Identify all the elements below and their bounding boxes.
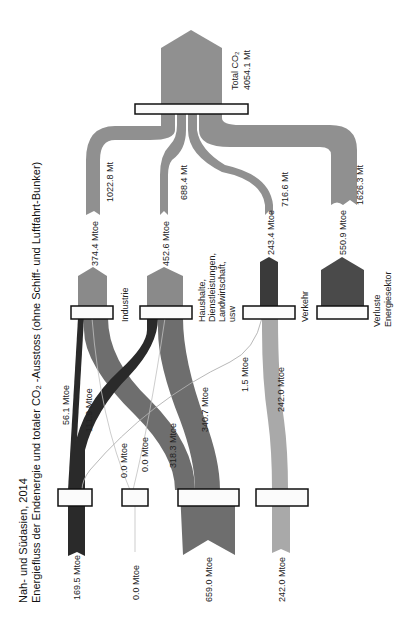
haushalte-energy-arrow bbox=[147, 267, 183, 306]
industrie-energy-arrow bbox=[78, 267, 107, 306]
co2-industrie-value: 1022.8 Mt bbox=[105, 161, 115, 202]
haushalte-label-3: Landwirtschaft, bbox=[217, 261, 227, 322]
flow-0-0-a-value: 0.0 Mtoe bbox=[119, 443, 129, 478]
flow-318-3-value: 318.3 Mtoe bbox=[168, 423, 178, 468]
co2-haushalte-value: 688.4 Mt bbox=[179, 164, 189, 200]
flow-56-1-value: 56.1 Mtoe bbox=[61, 385, 71, 425]
source3-value: 659.0 Mtoe bbox=[204, 557, 214, 602]
verkehr-label: Verkehr bbox=[300, 291, 310, 322]
total-co2-arrow bbox=[161, 30, 222, 105]
flow-1-5-value: 1.5 Mtoe bbox=[240, 357, 250, 392]
verluste-energy-arrow bbox=[321, 257, 364, 306]
total-co2-value: 4054.1 Mt bbox=[242, 49, 252, 90]
industrie-energy-value: 374.4 Mtoe bbox=[90, 221, 100, 266]
source3-node bbox=[178, 489, 239, 506]
industrie-node bbox=[71, 306, 113, 319]
verluste-node bbox=[317, 306, 368, 319]
industrie-label: Industrie bbox=[120, 287, 130, 322]
co2-flow-verluste bbox=[199, 110, 357, 205]
verkehr-energy-arrow bbox=[260, 257, 278, 306]
haushalte-label-2: Dienstleistungen, bbox=[207, 253, 217, 322]
flow-0-0-b-value: 0.0 Mtoe bbox=[140, 437, 150, 472]
title-line1: Nah- und Südasien, 2014 bbox=[17, 478, 29, 603]
haushalte-energy-value: 452.6 Mtoe bbox=[161, 221, 171, 266]
flow-111-9-value: 111.9 Mtoe bbox=[84, 388, 94, 432]
co2-verluste-value: 1626.3 Mt bbox=[355, 164, 365, 205]
source2-node bbox=[122, 489, 148, 506]
title-line2: Energiefluss der Endenergie und totaler … bbox=[30, 162, 42, 603]
total-co2-label: Total CO₂ bbox=[230, 51, 240, 90]
verluste-label-1: Verluste bbox=[372, 294, 382, 327]
source1-node bbox=[58, 489, 92, 506]
total-co2-node bbox=[135, 104, 248, 114]
source2-value: 0.0 Mtoe bbox=[131, 565, 141, 600]
verkehr-energy-value: 243.4 Mtoe bbox=[266, 210, 276, 255]
flow-340-7-value: 340.7 Mtoe bbox=[200, 387, 210, 432]
haushalte-label-1: Haushalte, bbox=[197, 279, 207, 322]
source4-value: 242.0 Mtoe bbox=[277, 557, 287, 602]
verluste-label-2: Energiesektor bbox=[383, 271, 393, 327]
source1-value: 169.5 Mtoe bbox=[72, 555, 82, 600]
flow-242-0-value: 242.0 Mtoe bbox=[276, 367, 286, 412]
haushalte-node bbox=[140, 306, 192, 319]
haushalte-label-4: usw bbox=[227, 305, 237, 322]
co2-verkehr-value: 716.6 Mt bbox=[280, 171, 290, 207]
sankey-diagram: Nah- und Südasien, 2014 Energiefluss der… bbox=[0, 0, 403, 644]
source4-node bbox=[256, 489, 308, 506]
verluste-energy-value: 550.9 Mtoe bbox=[338, 210, 348, 255]
verkehr-node bbox=[243, 306, 295, 319]
